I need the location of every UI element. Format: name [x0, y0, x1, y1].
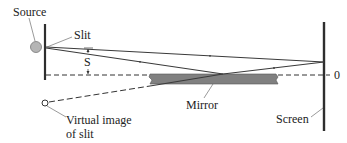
- label-source: Source: [13, 5, 46, 19]
- label-mirror: Mirror: [186, 98, 218, 112]
- reflected-ray-arrow: [273, 67, 275, 69]
- label-s: S: [84, 55, 91, 69]
- source-leader: [29, 18, 35, 41]
- virtual-ray-dashed: [49, 86, 150, 102]
- incident-ray-arrow: [139, 61, 141, 63]
- source-icon: [31, 42, 42, 53]
- label-screen: Screen: [276, 112, 309, 126]
- mirror-leader: [204, 84, 213, 98]
- s-arrow-down: [87, 71, 90, 74]
- slit-leader: [47, 37, 72, 47]
- virtual-image-leader: [47, 106, 66, 117]
- label-zero: 0: [334, 68, 340, 82]
- label-slit: Slit: [74, 28, 91, 42]
- label-virtual-image-line2: of slit: [66, 127, 94, 141]
- direct-ray-arrow: [209, 55, 211, 57]
- virtual-image-marker: [42, 100, 48, 106]
- screen-leader: [311, 108, 323, 117]
- label-virtual-image-line1: Virtual image: [66, 113, 132, 127]
- lloyds-mirror-diagram: Source Slit S 0 Mirror Virtual image of …: [0, 0, 347, 143]
